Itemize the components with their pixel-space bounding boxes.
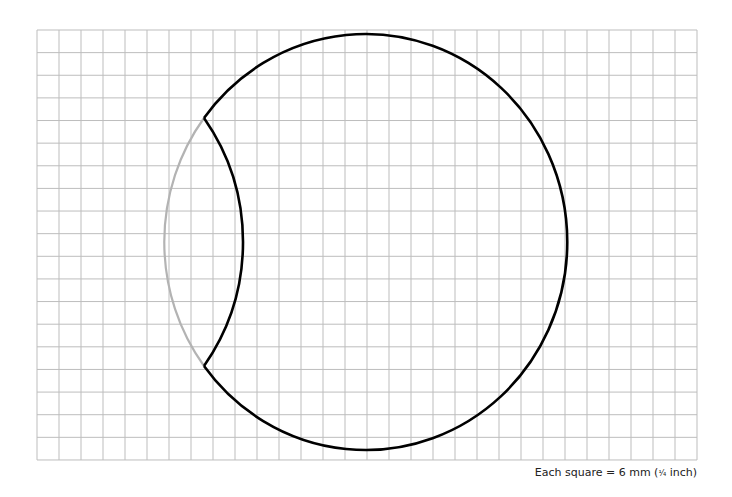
outer-circle-arc [204, 34, 567, 450]
caption-fraction: ¹⁄₄ [658, 469, 666, 478]
caption-prefix: Each square = 6 mm ( [535, 466, 659, 479]
scale-caption: Each square = 6 mm (¹⁄₄ inch) [535, 466, 697, 479]
diagram-canvas [0, 0, 732, 497]
inner-cut-arc [204, 118, 243, 366]
removed-arc-gray [164, 118, 204, 366]
caption-suffix: inch) [666, 466, 697, 479]
grid-lines [37, 30, 697, 460]
